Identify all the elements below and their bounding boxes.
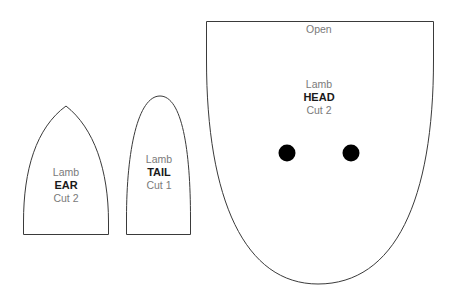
ear-label-line1: Lamb bbox=[36, 166, 96, 179]
right-eye-dot bbox=[343, 145, 360, 162]
ear-label-name: EAR bbox=[36, 179, 96, 192]
ear-label: Lamb EAR Cut 2 bbox=[36, 166, 96, 205]
tail-label: Lamb TAIL Cut 1 bbox=[130, 153, 188, 192]
head-open-label: Open bbox=[306, 23, 332, 35]
tail-label-name: TAIL bbox=[130, 166, 188, 179]
tail-label-line1: Lamb bbox=[130, 153, 188, 166]
head-label: Lamb HEAD Cut 2 bbox=[289, 78, 349, 117]
ear-label-cut: Cut 2 bbox=[36, 192, 96, 205]
head-piece-outline bbox=[207, 22, 434, 285]
head-label-cut: Cut 2 bbox=[289, 104, 349, 117]
tail-label-cut: Cut 1 bbox=[130, 179, 188, 192]
head-label-line1: Lamb bbox=[289, 78, 349, 91]
pattern-canvas bbox=[0, 0, 456, 298]
head-label-name: HEAD bbox=[289, 91, 349, 104]
left-eye-dot bbox=[279, 145, 296, 162]
